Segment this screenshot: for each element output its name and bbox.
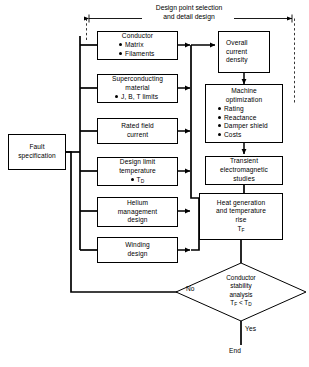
transient-line1: Transient xyxy=(206,157,282,166)
overall-density-line1: Overall xyxy=(219,39,269,48)
transient-line3: studies xyxy=(206,175,282,184)
machine-optimization-line1: Machine xyxy=(206,87,282,96)
yes-branch-label: Yes xyxy=(245,325,256,332)
input-box-output-arrows xyxy=(178,45,190,250)
overall-density-line3: density xyxy=(219,56,269,65)
superconducting-material-box[interactable]: Superconducting material J, B, T limits xyxy=(97,74,178,103)
overall-density-line2: current xyxy=(219,48,269,57)
conductor-bullet-matrix: Matrix xyxy=(98,41,177,50)
decision-line1: Conductor xyxy=(211,274,271,282)
superconducting-line2: material xyxy=(98,84,177,93)
decision-line3: analysis xyxy=(211,291,271,299)
winding-line1: Winding xyxy=(98,241,177,250)
helium-line3: design xyxy=(98,216,177,225)
heat-generation-line4: TF xyxy=(200,225,282,234)
machine-optimization-line2: optimization xyxy=(206,96,282,105)
machine-bullet-rating: Rating xyxy=(206,105,282,114)
diagram-title: Design point selection and detail design xyxy=(129,4,249,22)
superconducting-bullet-limits: J, B, T limits xyxy=(98,93,177,102)
right-collector-bus xyxy=(191,45,199,250)
design-limit-bullet-td: TD xyxy=(98,176,177,185)
bullet-dot-icon xyxy=(119,52,122,55)
rated-field-line1: Rated field xyxy=(98,122,177,131)
transient-electromagnetic-studies-box[interactable]: Transient electromagnetic studies xyxy=(205,156,283,185)
heat-generation-line2: and temperature xyxy=(200,207,282,216)
conductor-title: Conductor xyxy=(98,32,177,41)
winding-line2: design xyxy=(98,250,177,259)
machine-optimization-box[interactable]: Machine optimization Rating Reactance Da… xyxy=(205,84,283,143)
conductor-box[interactable]: Conductor Matrix Filaments xyxy=(97,31,178,60)
helium-line2: management xyxy=(98,208,177,217)
heat-generation-line3: rise xyxy=(200,216,282,225)
conductor-bullet-filaments: Filaments xyxy=(98,50,177,59)
helium-line1: Helium xyxy=(98,199,177,208)
machine-bullet-reactance: Reactance xyxy=(206,114,282,123)
fault-specification-box[interactable]: Fault specification xyxy=(8,134,66,170)
design-limit-line1: Design limit xyxy=(98,158,177,167)
machine-bullet-damper-shield: Damper shield xyxy=(206,122,282,131)
bullet-dot-icon xyxy=(218,116,221,119)
rated-field-line2: current xyxy=(98,131,177,140)
design-limit-temperature-box[interactable]: Design limit temperature TD xyxy=(97,157,178,186)
diagram-title-line2: and detail design xyxy=(129,13,249,22)
bullet-dot-icon xyxy=(218,133,221,136)
design-limit-line2: temperature xyxy=(98,167,177,176)
diagram-title-line1: Design point selection xyxy=(129,4,249,13)
superconducting-line1: Superconducting xyxy=(98,75,177,84)
rated-field-current-box[interactable]: Rated field current xyxy=(97,118,178,144)
bullet-dot-icon xyxy=(218,124,221,127)
bullet-dot-icon xyxy=(218,107,221,110)
winding-design-box[interactable]: Winding design xyxy=(97,237,178,263)
bullet-dot-icon xyxy=(131,178,134,181)
transient-line2: electromagnetic xyxy=(206,166,282,175)
heat-generation-box[interactable]: Heat generation and temperature rise TF xyxy=(199,193,283,240)
overall-current-density-box[interactable]: Overall current density xyxy=(218,31,270,73)
fault-specification-line2: specification xyxy=(9,152,65,161)
end-label: End xyxy=(229,347,241,354)
decision-line2: stability xyxy=(211,282,271,290)
no-branch-label: No xyxy=(186,285,195,292)
left-input-bus xyxy=(80,36,97,250)
fault-specification-line1: Fault xyxy=(9,143,65,152)
machine-bullet-costs: Costs xyxy=(206,131,282,140)
decision-line4: TF < TD xyxy=(211,299,271,308)
bullet-dot-icon xyxy=(119,43,122,46)
bullet-dot-icon xyxy=(115,95,118,98)
decision-diamond-label: Conductor stability analysis TF < TD xyxy=(211,274,271,308)
helium-management-design-box[interactable]: Helium management design xyxy=(97,197,178,227)
flowchart-diagram: Design point selection and detail design… xyxy=(0,0,309,367)
heat-generation-line1: Heat generation xyxy=(200,199,282,208)
